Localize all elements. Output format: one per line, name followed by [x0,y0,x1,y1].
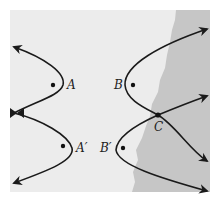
point-a-dot [51,83,55,87]
point-b-dot [131,83,135,87]
label-b-prime: B′ [100,142,112,154]
label-a: A [67,79,76,91]
label-b: B [114,79,123,91]
point-b-prime-dot [121,146,125,150]
label-a-prime: A′ [76,142,87,154]
hyperbola-wavefront-diagram [0,0,221,204]
label-c: C [154,121,163,133]
point-a-prime-dot [61,144,65,148]
point-c-dot [155,112,160,117]
